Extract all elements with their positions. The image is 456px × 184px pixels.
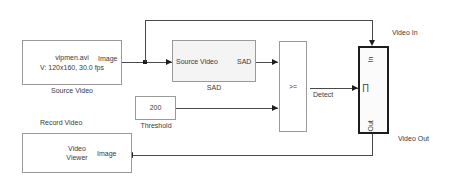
block-threshold[interactable]: 200 xyxy=(135,96,176,120)
wire-subsystem-out-drop xyxy=(372,134,373,155)
source-video-out-port-label: Image xyxy=(98,55,117,62)
wire-threshold-to-relational xyxy=(176,108,278,109)
wire-subsystem-out-to-viewer xyxy=(132,155,373,156)
sad-in-port-label: Source Video xyxy=(176,58,218,65)
subsystem-in-port-label: In xyxy=(367,51,374,63)
wire-detect-to-subsystem xyxy=(310,88,358,89)
wire-branch-riser xyxy=(145,20,146,62)
video-viewer-line2: Viewer xyxy=(66,153,87,162)
sad-caption: SAD xyxy=(172,84,256,92)
subsystem-out-port-label: Out xyxy=(367,114,374,132)
relational-operator-symbol: >= xyxy=(289,82,297,91)
arrow-into-relational-top xyxy=(272,59,278,65)
video-viewer-text: Video Viewer xyxy=(64,144,89,163)
threshold-value: 200 xyxy=(150,103,162,112)
threshold-caption: Threshold xyxy=(128,122,184,130)
sad-out-port-label: SAD xyxy=(237,58,251,65)
video-viewer-in-port-label: Image xyxy=(97,150,116,157)
signal-label-detect: Detect xyxy=(313,91,333,99)
block-diagram-canvas: vipmen.avi V: 120x160, 30.0 fps Image So… xyxy=(0,0,456,184)
source-video-caption: Source Video xyxy=(22,87,122,95)
wire-top-bus-to-subsystem xyxy=(145,20,372,21)
signal-label-video-out: Video Out xyxy=(398,135,429,143)
source-video-text: vipmen.avi V: 120x160, 30.0 fps xyxy=(38,53,106,72)
trigger-pulse-icon: ∏ xyxy=(362,83,369,92)
source-video-filename: vipmen.avi xyxy=(40,53,104,62)
block-relational-operator[interactable]: >= xyxy=(279,41,307,132)
record-video-caption: Record Video xyxy=(40,119,82,127)
video-viewer-line1: Video xyxy=(66,144,87,153)
source-video-format: V: 120x160, 30.0 fps xyxy=(40,63,104,72)
wire-subsystem-in-drop xyxy=(372,20,373,42)
signal-label-video-in: Video In xyxy=(392,29,418,37)
arrow-into-relational-bottom xyxy=(272,105,278,111)
block-source-video[interactable]: vipmen.avi V: 120x160, 30.0 fps xyxy=(22,40,122,85)
